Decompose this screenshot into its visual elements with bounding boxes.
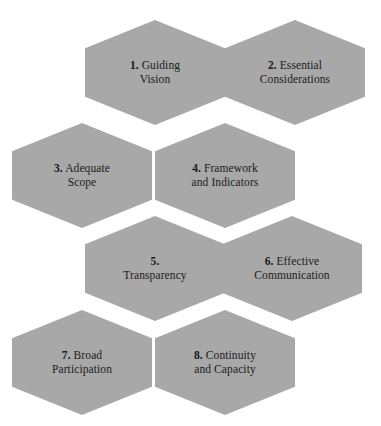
hexagon-line2: Transparency [123,269,186,281]
hexagon-line1: Continuity [206,349,256,361]
hexagon-line1: Adequate [65,162,110,174]
hexagon-label: 2. Essential Considerations [225,59,365,86]
hexagon-number: 2. [268,59,277,71]
hexagon-adequate-scope[interactable]: 3. Adequate Scope [12,123,152,228]
figure-root: 1. Guiding Vision 2. Essential Considera… [0,0,381,426]
hexagon-label: 1. Guiding Vision [85,59,225,86]
hexagon-line1: Framework [204,162,258,174]
hexagon-line1: Essential [280,59,322,71]
hexagon-label: 3. Adequate Scope [12,162,152,189]
hexagon-line2: Scope [68,176,97,188]
hexagon-line2: Considerations [260,73,330,85]
hexagon-framework-and-indicators[interactable]: 4. Framework and Indicators [155,123,295,228]
figure-caption [4,416,377,426]
hexagon-number: 3. [54,162,63,174]
hexagon-effective-communication[interactable]: 6. Effective Communication [222,216,362,321]
hexagon-label: 7. Broad Participation [12,349,152,376]
hexagon-number: 1. [130,59,139,71]
hexagon-guiding-vision[interactable]: 1. Guiding Vision [85,20,225,125]
hexagon-line2: Participation [52,363,112,375]
hexagon-number: 7. [62,349,71,361]
hexagon-continuity-and-capacity[interactable]: 8. Continuity and Capacity [155,310,295,415]
hexagon-transparency[interactable]: 5. Transparency [85,216,225,321]
hexagon-line1: Effective [276,255,319,267]
hexagon-line2: and Indicators [192,176,259,188]
hexagon-line1: Broad [74,349,103,361]
hexagon-broad-participation[interactable]: 7. Broad Participation [12,310,152,415]
hexagon-number: 5. [151,255,160,267]
hexagon-line2: Vision [140,73,171,85]
hexagon-line2: and Capacity [194,363,256,375]
hexagon-label: 8. Continuity and Capacity [155,349,295,376]
hexagon-essential-considerations[interactable]: 2. Essential Considerations [225,20,365,125]
hexagon-number: 8. [194,349,203,361]
hexagon-label: 4. Framework and Indicators [155,162,295,189]
hexagon-line1: Guiding [142,59,180,71]
hexagon-number: 6. [265,255,274,267]
hexagon-number: 4. [192,162,201,174]
hexagon-label: 6. Effective Communication [222,255,362,282]
hexagon-diagram: 1. Guiding Vision 2. Essential Considera… [0,0,381,426]
hexagon-line2: Communication [254,269,329,281]
hexagon-label: 5. Transparency [85,255,225,282]
